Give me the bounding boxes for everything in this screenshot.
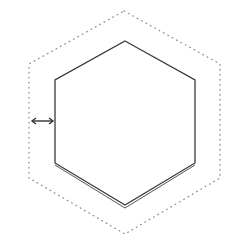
inner-hexagon bbox=[55, 41, 195, 205]
double-arrow-icon bbox=[32, 118, 53, 124]
hexagon-diagram bbox=[0, 0, 232, 236]
